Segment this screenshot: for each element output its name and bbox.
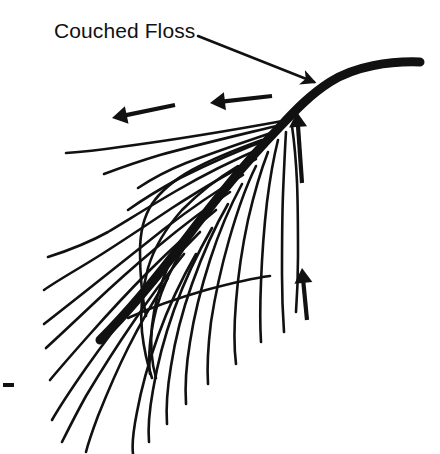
left-edge-tick-mark	[3, 383, 14, 387]
couched-floss-figure: Couched Floss	[0, 0, 440, 454]
couched-floss-illustration	[0, 0, 440, 454]
couched-floss-label: Couched Floss	[54, 20, 195, 41]
